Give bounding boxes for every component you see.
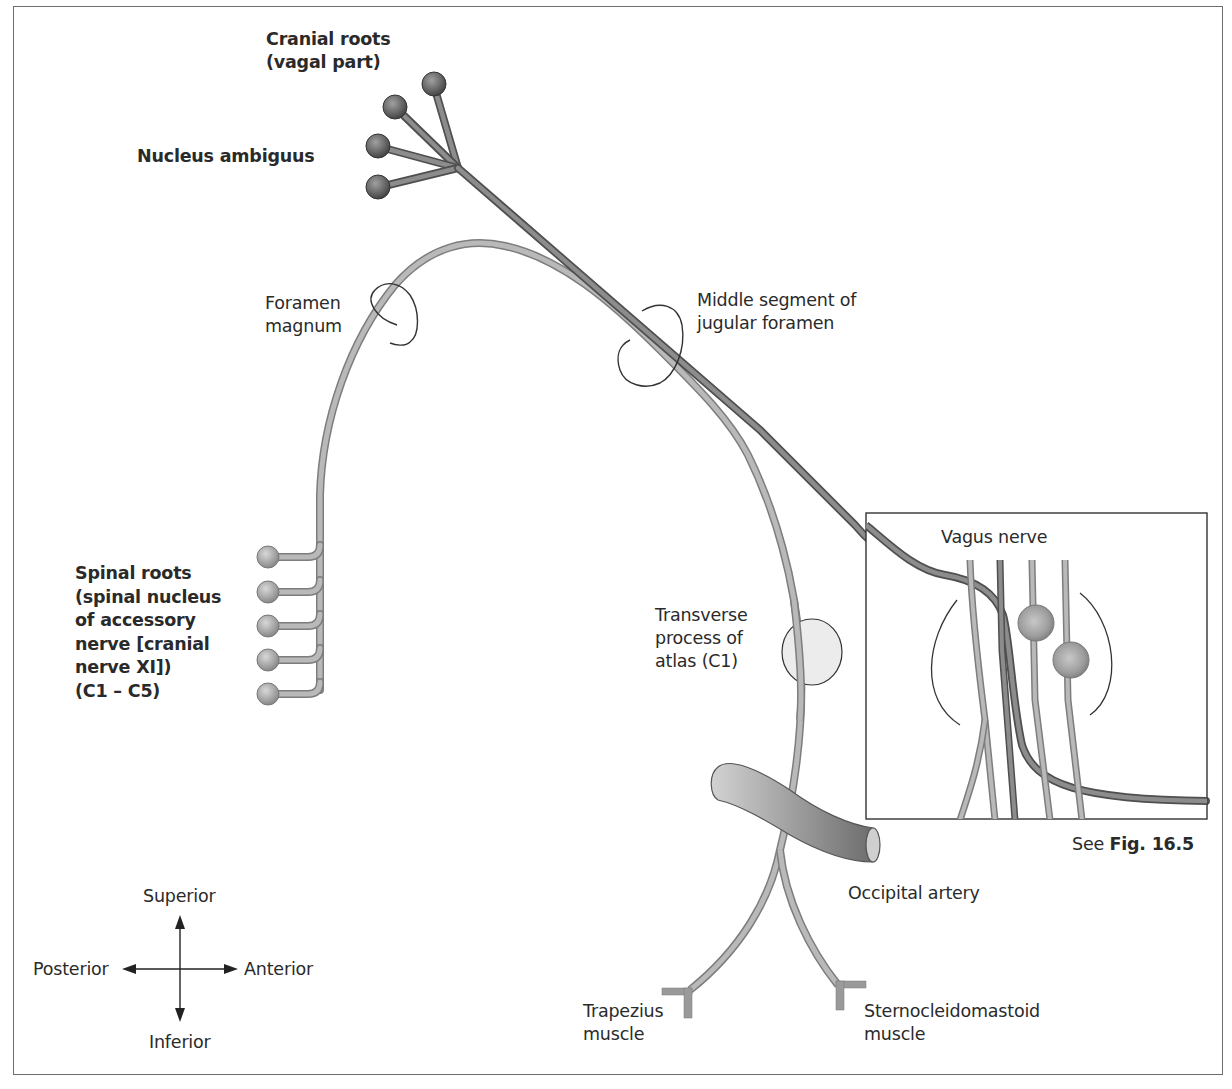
transverse-process-atlas [782, 619, 842, 685]
label-occipital-artery: Occipital artery [848, 882, 980, 905]
label-anterior: Anterior [244, 958, 313, 981]
orientation-compass [122, 915, 238, 1022]
sternocleidomastoid-ending [836, 981, 866, 1010]
label-nucleus-ambiguus: Nucleus ambiguus [137, 145, 315, 168]
label-spinal-roots: Spinal roots (spinal nucleus of accessor… [75, 562, 221, 703]
label-transverse-process: Transverse process of atlas (C1) [655, 604, 747, 673]
arrow-down-icon [175, 1008, 185, 1022]
label-vagus-nerve: Vagus nerve [941, 526, 1047, 549]
trapezius-ending [662, 988, 692, 1018]
label-jugular-foramen: Middle segment of jugular foramen [697, 289, 856, 335]
label-sternocleidomastoid: Sternocleidomastoid muscle [864, 1000, 1040, 1046]
label-posterior: Posterior [33, 958, 109, 981]
label-cranial-roots: Cranial roots (vagal part) [266, 28, 391, 74]
see-prefix: See [1072, 834, 1109, 854]
label-superior: Superior [143, 885, 215, 908]
spinal-accessory-nerve [257, 243, 866, 1018]
spinal-root-cell-bodies [257, 546, 279, 705]
label-trapezius: Trapezius muscle [583, 1000, 663, 1046]
label-inferior: Inferior [149, 1031, 211, 1054]
foramen-magnum-ring [371, 284, 417, 345]
label-foramen-magnum: Foramen magnum [265, 292, 342, 338]
vagus-inset [866, 513, 1210, 820]
arrow-right-icon [224, 964, 238, 974]
inferior-ganglion [1053, 642, 1089, 678]
arrow-left-icon [122, 964, 136, 974]
arrow-up-icon [175, 915, 185, 929]
superior-ganglion [1018, 605, 1054, 641]
figure-reference: Fig. 16.5 [1109, 834, 1194, 854]
label-see-figure: See Fig. 16.5 [1072, 833, 1194, 856]
